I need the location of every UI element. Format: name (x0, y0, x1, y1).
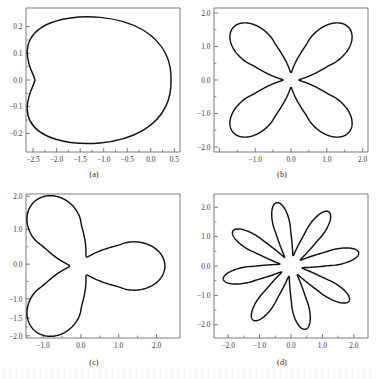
svg-text:−1.0: −1.0 (197, 109, 211, 118)
svg-text:−1.0: −1.0 (97, 155, 111, 164)
svg-text:0.2: 0.2 (13, 22, 23, 31)
panel-d: −2.0−1.00.01.02.02.01.00.0−1.0−2.0 (d) (188, 186, 376, 376)
svg-text:1.0: 1.0 (318, 341, 328, 350)
svg-text:0.0: 0.0 (146, 155, 156, 164)
panel-d-plot: −2.0−1.00.01.02.02.01.00.0−1.0−2.0 (188, 186, 376, 376)
panel-d-frame (214, 194, 368, 338)
svg-text:0.0: 0.0 (201, 262, 211, 271)
figure-panel-grid: −2.5−2.0−1.5−1.0−0.50.00.50.20.10.0−0.1−… (0, 0, 376, 379)
svg-text:−0.5: −0.5 (121, 155, 135, 164)
panel-d-caption: (d) (188, 358, 376, 367)
panel-c-rosette-curve (27, 196, 165, 337)
panel-a: −2.5−2.0−1.5−1.0−0.50.00.50.20.10.0−0.1−… (0, 0, 188, 190)
svg-text:1.0: 1.0 (114, 341, 124, 350)
panel-c-plot: −1.00.01.02.02.01.00.0−1.0−1.5−2.0 (0, 186, 188, 376)
svg-text:−1.0: −1.0 (9, 295, 23, 304)
panel-b-frame (214, 8, 368, 152)
svg-text:−1.0: −1.0 (36, 341, 50, 350)
svg-text:−0.1: −0.1 (9, 102, 23, 111)
svg-text:0.5: 0.5 (170, 155, 180, 164)
svg-text:2.0: 2.0 (349, 341, 359, 350)
panel-d-ticks (214, 207, 354, 338)
svg-text:1.0: 1.0 (201, 232, 211, 241)
svg-text:−1.0: −1.0 (248, 155, 262, 164)
panel-b-caption: (b) (188, 170, 376, 179)
panel-a-plot: −2.5−2.0−1.5−1.0−0.50.00.50.20.10.0−0.1−… (0, 0, 188, 190)
panel-b-plot: −1.00.01.02.02.01.00.0−1.0−2.0 (188, 0, 376, 190)
panel-c-ticklabels: −1.00.01.02.02.01.00.0−1.0−1.5−2.0 (9, 192, 161, 350)
svg-text:2.0: 2.0 (201, 9, 211, 18)
svg-text:0.0: 0.0 (286, 155, 296, 164)
panel-b-ticks (214, 13, 363, 152)
svg-text:−2.0: −2.0 (197, 320, 211, 329)
svg-text:2.0: 2.0 (13, 192, 23, 201)
svg-text:2.0: 2.0 (201, 203, 211, 212)
panel-c-caption: (c) (0, 358, 188, 367)
panel-a-caption: (a) (0, 170, 188, 179)
panel-d-rosette-curve (223, 203, 358, 330)
svg-text:−2.0: −2.0 (9, 332, 23, 341)
svg-text:−2.0: −2.0 (221, 341, 235, 350)
svg-text:−1.0: −1.0 (253, 341, 267, 350)
panel-a-orbit-curve (27, 17, 171, 144)
svg-text:−1.0: −1.0 (197, 291, 211, 300)
svg-text:−1.5: −1.5 (9, 314, 23, 323)
svg-text:1.0: 1.0 (13, 225, 23, 234)
svg-text:0.1: 0.1 (13, 49, 23, 58)
panel-c-frame (26, 194, 180, 338)
svg-text:−2.5: −2.5 (26, 155, 40, 164)
panel-c-axes (26, 194, 180, 338)
panel-c: −1.00.01.02.02.01.00.0−1.0−1.5−2.0 (c) (0, 186, 188, 376)
svg-text:−2.0: −2.0 (50, 155, 64, 164)
panel-a-frame (26, 8, 180, 152)
svg-text:2.0: 2.0 (358, 155, 368, 164)
svg-text:1.0: 1.0 (322, 155, 332, 164)
panel-b-rosette-curve (230, 23, 352, 137)
svg-text:0.0: 0.0 (76, 341, 86, 350)
panel-b-ticklabels: −1.00.01.02.02.01.00.0−1.0−2.0 (197, 9, 367, 164)
svg-text:−2.0: −2.0 (197, 143, 211, 152)
panel-a-ticks (26, 27, 174, 152)
svg-text:0.0: 0.0 (201, 76, 211, 85)
svg-text:2.0: 2.0 (152, 341, 162, 350)
panel-a-axes (26, 8, 180, 152)
svg-text:0.0: 0.0 (13, 260, 23, 269)
svg-text:0.0: 0.0 (13, 76, 23, 85)
svg-text:1.0: 1.0 (201, 42, 211, 51)
panel-d-axes (214, 194, 368, 338)
svg-text:0.0: 0.0 (286, 341, 296, 350)
scan-artifact-strip (0, 368, 376, 379)
svg-text:−0.2: −0.2 (9, 129, 23, 138)
panel-b: −1.00.01.02.02.01.00.0−1.0−2.0 (b) (188, 0, 376, 190)
svg-text:−1.5: −1.5 (73, 155, 87, 164)
panel-c-ticks (26, 196, 157, 338)
panel-b-axes (214, 8, 368, 152)
